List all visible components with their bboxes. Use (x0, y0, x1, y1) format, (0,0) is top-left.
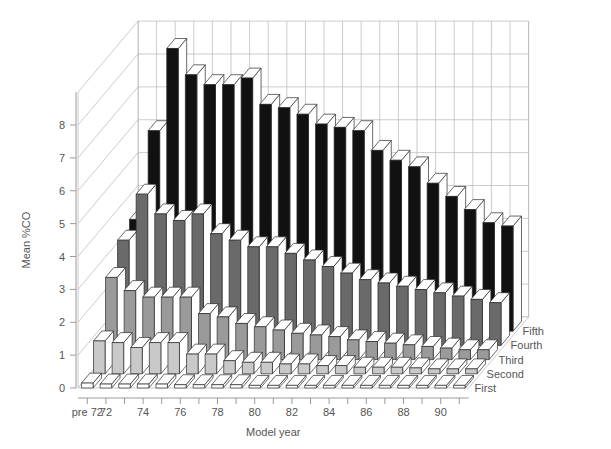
bar-front-face (82, 383, 94, 388)
y-axis-tick-label: 5 (59, 218, 65, 230)
x-axis-tick-label: 84 (323, 406, 335, 418)
bar (168, 333, 188, 374)
y-axis-tick-label: 0 (59, 382, 65, 394)
bar (452, 286, 472, 345)
bar-front-face (100, 384, 112, 388)
bar-front-face (193, 385, 205, 388)
bar-front-face (471, 299, 483, 345)
bar-front-face (354, 367, 366, 374)
series-label-third: Third (499, 354, 524, 366)
x-axis-tick-label: 80 (249, 406, 261, 418)
bar-front-face (416, 385, 428, 388)
bar-front-face (298, 364, 310, 374)
bar-front-face (261, 362, 273, 374)
bar-front-face (373, 367, 385, 374)
bar-front-face (466, 369, 478, 374)
bar-front-face (168, 343, 180, 374)
bar-front-face (175, 385, 187, 388)
bar-front-face (137, 384, 149, 388)
bar-front-face (205, 354, 217, 374)
bar-front-face (268, 385, 280, 388)
x-axis-tick-label: pre 72 (72, 406, 103, 418)
bar-front-face (112, 343, 124, 374)
bar-front-face (379, 385, 391, 388)
bar-front-face (94, 341, 106, 374)
bar-front-face (435, 385, 447, 388)
series-label-second: Second (487, 368, 524, 380)
series-label-fifth: Fifth (523, 325, 544, 337)
bar-front-face (156, 384, 168, 388)
bar-front-face (131, 348, 143, 374)
bar-front-face (305, 385, 317, 388)
x-axis-tick-label: 86 (360, 406, 372, 418)
x-axis-tick-label: 74 (137, 406, 149, 418)
bar-front-face (454, 385, 466, 388)
y-axis-tick-label: 3 (59, 283, 65, 295)
bar-front-face (478, 350, 490, 360)
mean-co-3d-bar-chart: 012345678pre 7272747678808284868890 Mean… (0, 0, 611, 449)
x-axis-tick-label: 72 (100, 406, 112, 418)
chart-container: 012345678pre 7272747678808284868890 Mean… (0, 0, 611, 449)
x-axis-tick-label: 90 (435, 406, 447, 418)
y-axis-tick-label: 2 (59, 316, 65, 328)
bar-front-face (410, 368, 422, 374)
x-axis-tick-label: 82 (286, 406, 298, 418)
x-axis-tick-label: 76 (174, 406, 186, 418)
bar-front-face (119, 384, 131, 388)
bar (149, 333, 169, 374)
x-axis-title: Model year (246, 426, 301, 438)
bar-front-face (323, 385, 335, 388)
bar-front-face (398, 385, 410, 388)
bar-front-face (230, 385, 242, 388)
series-label-first: First (475, 382, 496, 394)
y-axis-tick-label: 1 (59, 349, 65, 361)
bar-front-face (342, 385, 354, 388)
bar-front-face (242, 362, 254, 374)
series-label-fourth: Fourth (511, 339, 543, 351)
bar-front-face (212, 385, 224, 388)
y-axis-tick-label: 6 (59, 185, 65, 197)
bar-front-face (459, 350, 471, 360)
bar-front-face (317, 366, 329, 374)
bar (471, 289, 491, 345)
bar-front-face (286, 385, 298, 388)
x-axis-tick-label: 88 (397, 406, 409, 418)
x-axis-tick-label: 78 (211, 406, 223, 418)
bar-side-face (513, 216, 521, 331)
bar-front-face (280, 364, 292, 374)
bar-front-face (224, 361, 236, 374)
bar-front-face (335, 366, 347, 374)
bar (434, 283, 454, 346)
bar-front-face (490, 303, 502, 346)
y-axis-tick-label: 4 (59, 251, 65, 263)
bar-front-face (428, 369, 440, 374)
y-axis-tick-label: 7 (59, 152, 65, 164)
bar (94, 331, 114, 374)
bar-front-face (249, 385, 261, 388)
bar-front-face (366, 342, 378, 360)
bar (112, 333, 132, 374)
bar (490, 293, 510, 346)
bar-front-face (187, 354, 199, 374)
y-axis-tick-label: 8 (59, 119, 65, 131)
bar-front-face (149, 343, 161, 374)
bar-front-face (391, 367, 403, 374)
bar-front-face (447, 369, 459, 374)
bar-front-face (361, 385, 373, 388)
y-axis-title: Mean %CO (20, 211, 32, 268)
bar-front-face (440, 348, 452, 360)
